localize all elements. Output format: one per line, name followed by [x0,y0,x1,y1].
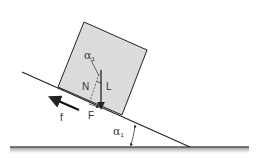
angle-arc-bottom [131,127,135,145]
lift-label: L [106,81,112,92]
incline-diagram: α1 N L F f α1 [0,0,257,158]
force-label: F [88,110,94,121]
normal-label: N [82,81,89,92]
ground [10,147,249,153]
alpha-bottom-label: α1 [113,125,124,138]
friction-arrow [54,99,79,110]
block [58,22,147,115]
friction-label: f [60,112,63,123]
